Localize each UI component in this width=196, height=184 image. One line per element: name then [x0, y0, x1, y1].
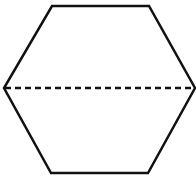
hexagon-diagram [0, 0, 196, 184]
hexagon-outline [4, 6, 195, 173]
